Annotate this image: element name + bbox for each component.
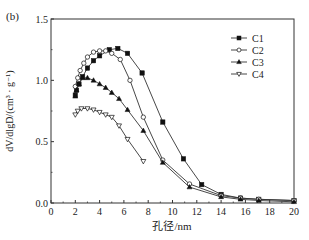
circle-marker [141, 115, 145, 119]
pore-size-distribution-chart: (b) 024681012141618200.00.51.01.5 C1C2C3… [0, 0, 309, 240]
x-tick-label: 20 [289, 206, 299, 217]
x-tick-label: 2 [73, 206, 78, 217]
series-c4 [73, 107, 146, 164]
square-marker [199, 182, 203, 186]
x-tick-label: 10 [168, 206, 178, 217]
square-marker [116, 46, 120, 50]
x-tick-label: 6 [121, 206, 126, 217]
circle-marker [110, 51, 114, 55]
series-line [75, 78, 294, 202]
panel-tag: (b) [6, 10, 19, 23]
circle-marker [82, 61, 86, 65]
circle-marker [85, 55, 89, 59]
x-tick-label: 4 [97, 206, 102, 217]
legend-label: C3 [252, 57, 264, 68]
legend-item-c2: C2 [231, 45, 264, 56]
triangle-down-marker [73, 113, 78, 117]
circle-marker [103, 49, 107, 53]
y-tick-label: 1.5 [36, 14, 49, 25]
x-tick-label: 18 [265, 206, 275, 217]
y-tick-label: 0.5 [36, 136, 49, 147]
x-tick-label: 8 [146, 206, 151, 217]
square-marker [140, 71, 144, 75]
circle-marker [118, 57, 122, 61]
triangle-down-marker [117, 124, 122, 128]
legend: C1C2C3C4 [231, 33, 264, 80]
y-tick-label: 1.0 [36, 75, 49, 86]
circle-marker [91, 50, 95, 54]
square-marker [161, 120, 165, 124]
x-tick-label: 16 [240, 206, 250, 217]
square-marker [181, 157, 185, 161]
legend-item-c3: C3 [231, 57, 264, 68]
legend-item-c1: C1 [231, 33, 264, 44]
x-axis-label: 孔径/nm [152, 220, 192, 232]
legend-label: C4 [252, 69, 264, 80]
x-tick-label: 0 [49, 206, 54, 217]
legend-item-c4: C4 [231, 69, 264, 80]
square-marker [85, 66, 89, 70]
square-marker [97, 54, 101, 58]
square-marker [91, 59, 95, 63]
legend-label: C1 [252, 33, 264, 44]
triangle-up-marker [97, 81, 102, 85]
circle-marker [128, 78, 132, 82]
triangle-down-marker [141, 159, 146, 163]
series-line [75, 109, 143, 162]
square-marker [125, 51, 129, 55]
circle-marker [76, 76, 80, 80]
x-tick-label: 14 [216, 206, 226, 217]
series-c3 [73, 75, 297, 203]
y-tick-label: 0.0 [36, 198, 49, 209]
circle-marker [97, 49, 101, 53]
circle-marker [78, 68, 82, 72]
x-tick-label: 12 [192, 206, 202, 217]
triangle-up-marker [103, 85, 108, 89]
y-axis-label: dV/dlgD/(cm³ · g⁻¹) [4, 70, 16, 151]
square-marker [237, 36, 241, 40]
legend-label: C2 [252, 45, 264, 56]
circle-marker [237, 48, 241, 52]
